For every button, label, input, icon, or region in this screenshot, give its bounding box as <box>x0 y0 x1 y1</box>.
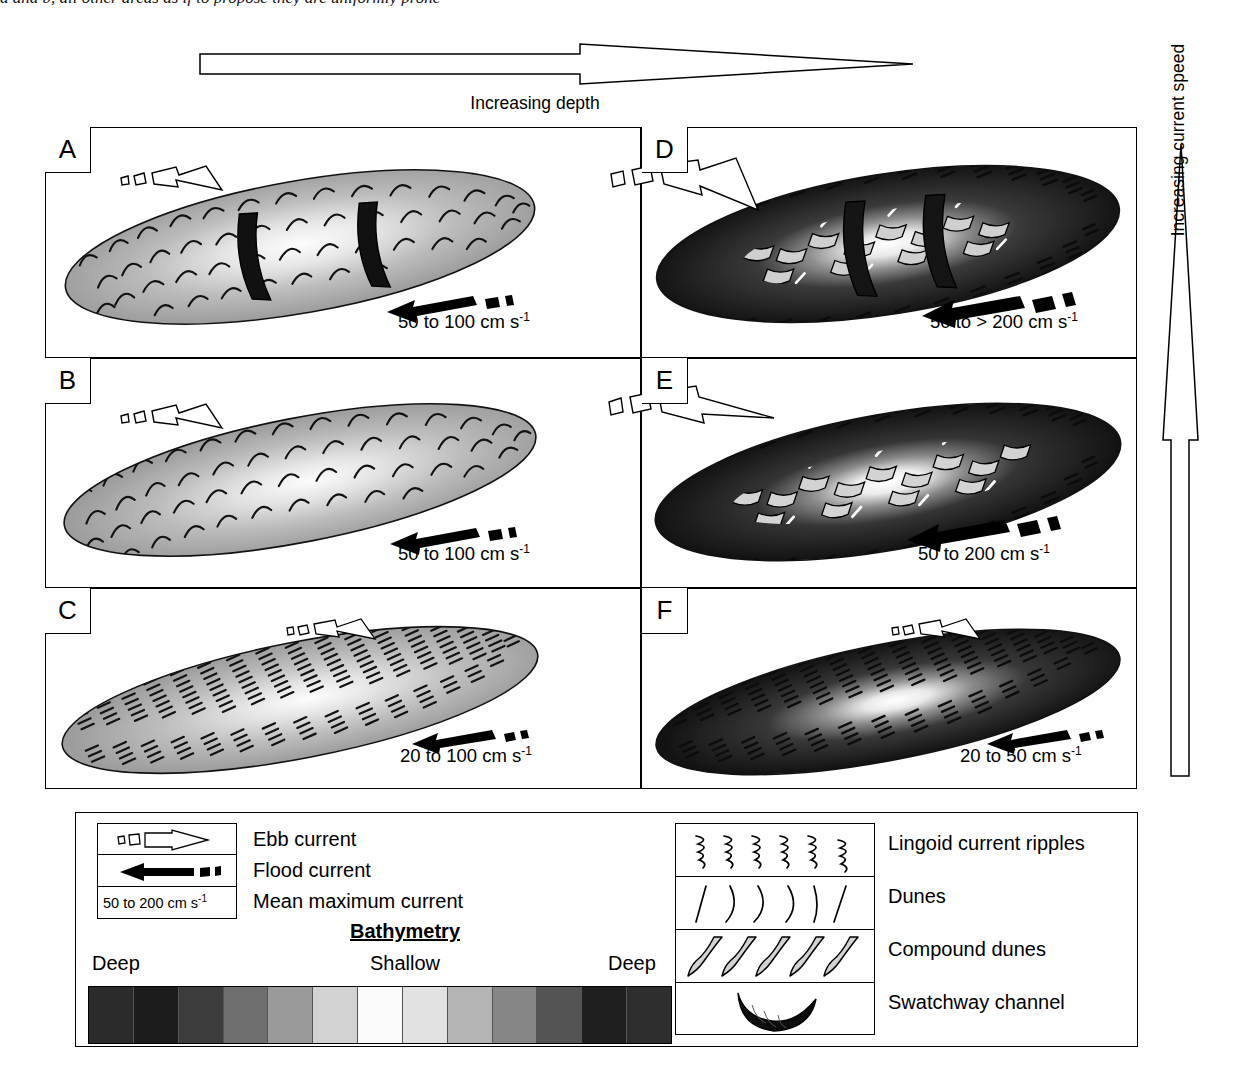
bathymetry-swatch-12 <box>627 987 671 1043</box>
panel-label-b: B <box>45 358 91 404</box>
bathymetry-swatch-5 <box>313 987 358 1043</box>
current-key-box: 50 to 200 cm s-1 <box>97 823 237 919</box>
mean-max-current-key-row: 50 to 200 cm s-1 <box>98 887 236 918</box>
compound-dunes-key-row <box>676 930 874 983</box>
bathymetry-swatch-6 <box>358 987 403 1043</box>
ebb-current-key-row <box>98 824 236 855</box>
bathymetry-swatch-3 <box>224 987 269 1043</box>
panel-e-ebb-current-arrow <box>606 388 806 438</box>
flood-current-label: Flood current <box>253 859 371 882</box>
bathymetry-swatch-4 <box>268 987 313 1043</box>
swatchway-channel-icon <box>734 991 824 1031</box>
increasing-current-speed-label: Increasing current speed <box>1168 0 1189 300</box>
bathymetry-color-scale <box>88 986 672 1044</box>
flood-current-arrow-icon <box>120 863 220 881</box>
grid-horizontal-divider-1 <box>45 357 1137 359</box>
lingoid-ripples-key-row <box>676 824 874 877</box>
bathymetry-swatch-11 <box>582 987 627 1043</box>
dunes-icon <box>690 882 866 926</box>
mean-max-current-label: Mean maximum current <box>253 890 463 913</box>
ebb-current-label: Ebb current <box>253 828 356 851</box>
grid-horizontal-divider-2 <box>45 587 1137 589</box>
ebb-current-arrow-icon <box>116 830 220 850</box>
panel-c-speed-label: 20 to 100 cm s-1 <box>400 744 532 767</box>
compound-dunes-label: Compound dunes <box>888 938 1046 961</box>
dunes-label: Dunes <box>888 885 946 908</box>
bathymetry-swatch-7 <box>403 987 448 1043</box>
bedform-key-box <box>675 823 875 1035</box>
bathymetry-deep-right-label: Deep <box>608 952 656 975</box>
panel-f-speed-label: 20 to 50 cm s-1 <box>960 744 1082 767</box>
panel-d-speed-label: 50 to > 200 cm s-1 <box>930 310 1078 333</box>
bathymetry-swatch-9 <box>493 987 538 1043</box>
bathymetry-deep-left-label: Deep <box>92 952 140 975</box>
dunes-key-row <box>676 877 874 930</box>
bathymetry-title: Bathymetry <box>255 920 555 943</box>
bathymetry-swatch-8 <box>448 987 493 1043</box>
panel-a-ebb-current-arrow <box>118 162 228 202</box>
panel-label-f: F <box>642 588 688 634</box>
panel-label-c: C <box>45 588 91 634</box>
increasing-depth-arrow <box>195 40 925 88</box>
panel-a-speed-label: 50 to 100 cm s-1 <box>398 310 530 333</box>
bathymetry-swatch-10 <box>537 987 582 1043</box>
panel-label-d: D <box>642 127 688 173</box>
panel-label-e: E <box>642 358 688 404</box>
bathymetry-swatch-2 <box>179 987 224 1043</box>
panel-d-ebb-current-arrow <box>608 162 788 222</box>
bathymetry-swatch-0 <box>89 987 134 1043</box>
bathymetry-shallow-label: Shallow <box>255 952 555 975</box>
lingoid-ripples-label: Lingoid current ripples <box>888 832 1085 855</box>
panel-c-ebb-current-arrow <box>285 615 385 649</box>
lingoid-ripples-icon <box>688 830 864 872</box>
grid-vertical-divider <box>640 127 642 789</box>
swatchway-channel-label: Swatchway channel <box>888 991 1065 1014</box>
panel-b-ebb-current-arrow <box>118 400 228 440</box>
swatchway-channel-key-row <box>676 983 874 1036</box>
compound-dunes-icon <box>684 934 866 980</box>
panel-b-speed-label: 50 to 100 cm s-1 <box>398 542 530 565</box>
panel-e-speed-label: 50 to 200 cm s-1 <box>918 542 1050 565</box>
bathymetry-swatch-1 <box>134 987 179 1043</box>
cut-off-caption: a and b, all other areas as if to propos… <box>0 0 620 6</box>
flood-current-key-row <box>98 855 236 886</box>
increasing-depth-label: Increasing depth <box>0 93 1246 114</box>
panel-f-ebb-current-arrow <box>890 615 990 649</box>
panel-label-a: A <box>45 127 91 173</box>
mean-max-current-value: 50 to 200 cm s-1 <box>103 893 207 911</box>
